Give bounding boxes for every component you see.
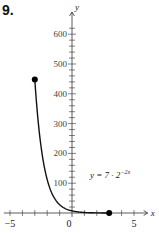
y-tick-label: 400	[54, 89, 68, 99]
x-tick-label: 5	[132, 218, 137, 229]
y-tick-label: 300	[54, 119, 68, 129]
y-tick-label: 100	[54, 178, 68, 188]
y-tick-label: 200	[54, 148, 68, 158]
endpoint-dot	[32, 76, 38, 82]
y-axis-label: y	[74, 2, 79, 12]
x-axis-label: x	[150, 208, 155, 218]
x-tick-label: 0	[67, 218, 72, 229]
equation-exponent: −2x	[120, 169, 130, 175]
y-tick-label: 500	[54, 59, 68, 69]
function-graph: −505100200300400500600xy	[0, 0, 159, 233]
equation-label: y = 7 · 2−2x	[90, 169, 130, 180]
y-tick-label: 600	[54, 29, 68, 39]
equation-base: y = 7 · 2	[90, 170, 120, 180]
x-tick-label: −5	[5, 218, 16, 229]
endpoint-dot	[106, 210, 112, 216]
